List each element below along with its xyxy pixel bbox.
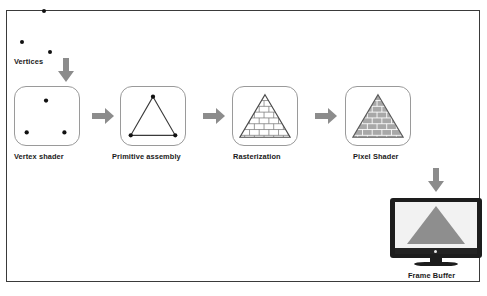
input-vertex-dot <box>42 9 46 13</box>
frame-buffer-label: Frame Buffer <box>408 271 455 280</box>
arrow-down-icon <box>428 168 444 192</box>
arrow-down-icon <box>58 58 74 82</box>
stage-rasterization <box>232 86 298 146</box>
monitor-screen <box>395 202 477 248</box>
input-vertex-dot <box>48 50 52 54</box>
stage-vertex-shader <box>14 86 80 146</box>
arrow-right-icon <box>92 108 114 124</box>
monitor-base <box>414 262 458 266</box>
arrow-right-icon <box>315 108 337 124</box>
pipeline-diagram: Vertices Vertex shader Primitive assembl… <box>0 0 487 296</box>
stage-label-vertex-shader: Vertex shader <box>14 152 64 161</box>
arrow-right-icon <box>203 108 225 124</box>
stage-primitive-assembly <box>120 86 186 146</box>
input-vertex-dot <box>20 40 24 44</box>
power-led-icon <box>434 250 437 253</box>
stage-label-rasterization: Rasterization <box>233 152 281 161</box>
stage-label-primitive-assembly: Primitive assembly <box>112 152 181 161</box>
vertices-label: Vertices <box>14 57 43 66</box>
stage-pixel-shader <box>345 86 411 146</box>
frame-buffer-monitor <box>390 198 482 270</box>
stage-label-pixel-shader: Pixel Shader <box>353 152 399 161</box>
